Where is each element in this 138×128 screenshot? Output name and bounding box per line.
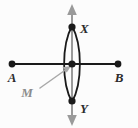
point-m-dot: [68, 60, 75, 67]
label-point-a: A: [7, 70, 17, 85]
label-point-b: B: [114, 70, 124, 85]
point-x-dot: [68, 23, 75, 30]
geometry-figure: A B X Y M: [0, 0, 138, 128]
point-a-dot: [9, 61, 16, 68]
label-point-m: M: [20, 85, 33, 100]
label-point-x: X: [79, 21, 89, 36]
figure-canvas: A B X Y M: [0, 0, 138, 128]
point-y-dot: [68, 97, 75, 104]
point-b-dot: [115, 61, 122, 68]
label-point-y: Y: [80, 101, 89, 116]
